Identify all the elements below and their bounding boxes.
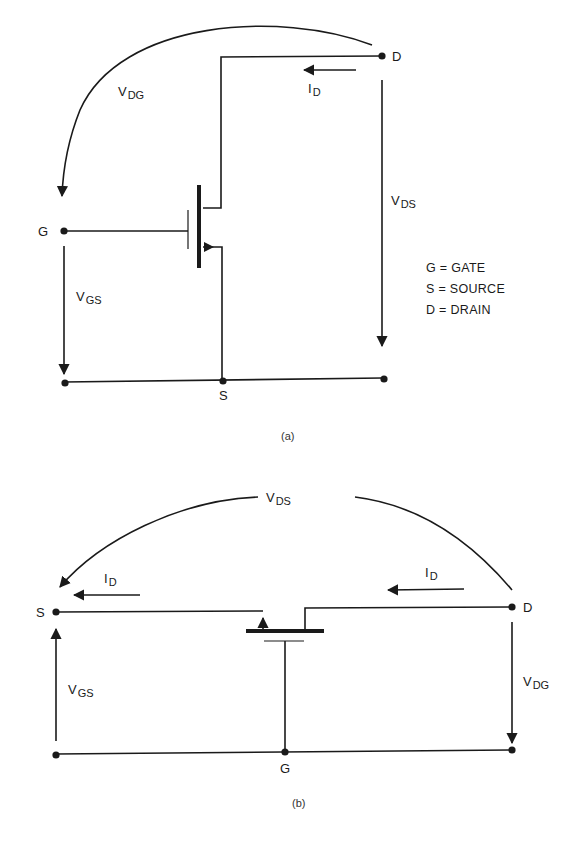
vds-main-b: V — [266, 490, 275, 505]
legend-source: S = SOURCE — [426, 279, 505, 300]
id-right-sub: D — [430, 570, 438, 582]
vdg-arc-arrow — [62, 26, 372, 196]
vdg-main-b: V — [523, 674, 532, 689]
figure-b-circuit — [56, 497, 513, 754]
vdg-sub-b: DG — [533, 679, 550, 691]
id-sub: D — [313, 86, 321, 98]
vdg-label-a: VDG — [118, 85, 144, 101]
id-arrow-right — [388, 589, 464, 590]
vds-label-b: VDS — [266, 491, 291, 507]
vds-arc-arrow-left — [60, 497, 258, 587]
vdg-label-b: VDG — [523, 675, 549, 691]
id-label-a: ID — [308, 82, 321, 98]
drain-label-b: D — [523, 601, 532, 614]
ground-right-dot-b — [508, 746, 515, 753]
drain-wire-b — [305, 607, 513, 631]
id-label-b-right: ID — [425, 566, 438, 582]
caption-a: (a) — [281, 430, 294, 442]
id-left-main: I — [104, 571, 108, 586]
vgs-sub: GS — [86, 294, 102, 306]
id-right-main: I — [425, 565, 429, 580]
vgs-sub-b: GS — [78, 687, 94, 699]
source-node-dot — [219, 377, 226, 384]
id-main: I — [308, 81, 312, 96]
drain-wire — [203, 56, 382, 208]
gate-node-dot-b — [281, 748, 288, 755]
legend-drain: D = DRAIN — [426, 300, 505, 321]
gate-label-a: G — [38, 225, 48, 238]
vds-label-a: VDS — [391, 194, 416, 210]
gate-terminal-dot — [60, 227, 67, 234]
ground-left-dot — [61, 379, 68, 386]
id-label-b-left: ID — [104, 572, 117, 588]
circuit-diagram — [0, 0, 582, 851]
terminal-legend: G = GATE S = SOURCE D = DRAIN — [426, 258, 505, 321]
vds-sub: DS — [401, 198, 416, 210]
vds-main: V — [391, 193, 400, 208]
vgs-main-b: V — [68, 682, 77, 697]
ground-right-dot — [380, 375, 387, 382]
vgs-label-a: VGS — [76, 290, 102, 306]
drain-terminal-dot — [378, 52, 385, 59]
source-arrowhead — [204, 242, 214, 252]
source-label-a: S — [219, 389, 228, 402]
vgs-main: V — [76, 289, 85, 304]
source-label-b: S — [36, 606, 45, 619]
gate-label-b: G — [280, 762, 290, 775]
figure-a-circuit — [62, 26, 382, 382]
drain-label-a: D — [392, 50, 401, 63]
id-left-sub: D — [109, 576, 117, 588]
source-terminal-dot-b — [52, 608, 59, 615]
ground-left-dot-b — [52, 751, 59, 758]
vds-sub-b: DS — [276, 495, 291, 507]
vdg-main: V — [118, 84, 127, 99]
drain-terminal-dot-b — [508, 603, 515, 610]
source-wire — [203, 247, 222, 382]
source-wire-b — [57, 611, 263, 612]
caption-b: (b) — [292, 797, 305, 809]
vgs-label-b: VGS — [68, 683, 94, 699]
vdg-sub: DG — [128, 89, 145, 101]
legend-gate: G = GATE — [426, 258, 505, 279]
